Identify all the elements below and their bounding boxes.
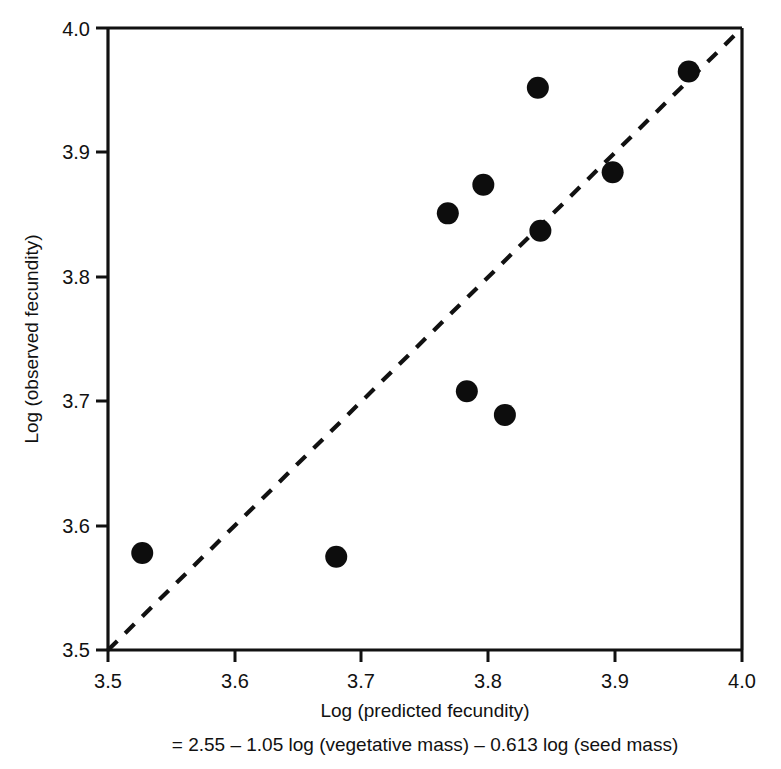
data-point (437, 202, 459, 224)
data-point (131, 542, 153, 564)
x-tick-label: 3.7 (347, 670, 375, 692)
data-point (456, 380, 478, 402)
data-point (529, 220, 551, 242)
y-tick-label: 3.7 (62, 390, 90, 412)
data-point (494, 404, 516, 426)
data-point (602, 161, 624, 183)
x-axis-equation-caption: = 2.55 – 1.05 log (vegetative mass) – 0.… (172, 734, 678, 755)
scatter-plot-figure: 3.5 3.6 3.7 3.8 3.9 4.0 3.5 3.6 3.7 3.8 … (0, 0, 781, 769)
data-point (325, 546, 347, 568)
y-axis-ticks (96, 28, 108, 650)
y-axis-tick-labels: 3.5 3.6 3.7 3.8 3.9 4.0 (62, 18, 90, 661)
x-tick-label: 3.5 (94, 670, 122, 692)
y-tick-label: 3.9 (62, 141, 90, 163)
y-tick-label: 4.0 (62, 18, 90, 40)
data-point (472, 174, 494, 196)
y-tick-label: 3.8 (62, 266, 90, 288)
y-tick-label: 3.5 (62, 639, 90, 661)
y-tick-label: 3.6 (62, 515, 90, 537)
x-tick-label: 3.9 (601, 670, 629, 692)
data-point (678, 61, 700, 83)
x-axis-ticks (108, 650, 742, 662)
reference-line-1to1 (108, 28, 742, 650)
data-points-layer (131, 61, 700, 568)
y-axis-title: Log (observed fecundity) (21, 234, 42, 443)
x-axis-tick-labels: 3.5 3.6 3.7 3.8 3.9 4.0 (94, 670, 756, 692)
x-axis-title: Log (predicted fecundity) (320, 700, 529, 721)
x-tick-label: 4.0 (728, 670, 756, 692)
x-tick-label: 3.6 (221, 670, 249, 692)
x-tick-label: 3.8 (474, 670, 502, 692)
data-point (527, 77, 549, 99)
